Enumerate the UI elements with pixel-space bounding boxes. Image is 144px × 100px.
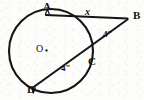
segment-label-cd-measure: 4": [61, 64, 71, 73]
point-label-c: C: [88, 56, 96, 67]
point-label-a: A: [43, 1, 51, 12]
circle-shape: [9, 9, 93, 93]
segment-label-tangent-x: x: [85, 7, 90, 17]
center-label-o: O: [36, 44, 43, 54]
center-dot-icon: [45, 49, 47, 51]
point-label-b: B: [133, 10, 140, 21]
figure-canvas: [0, 0, 144, 100]
segment-bd-secant: [33, 20, 128, 88]
segment-label-bc-measure: 4": [103, 30, 113, 39]
point-label-d: D: [27, 84, 35, 95]
geometry-figure: A B C D O x 4" 4": [0, 0, 144, 100]
